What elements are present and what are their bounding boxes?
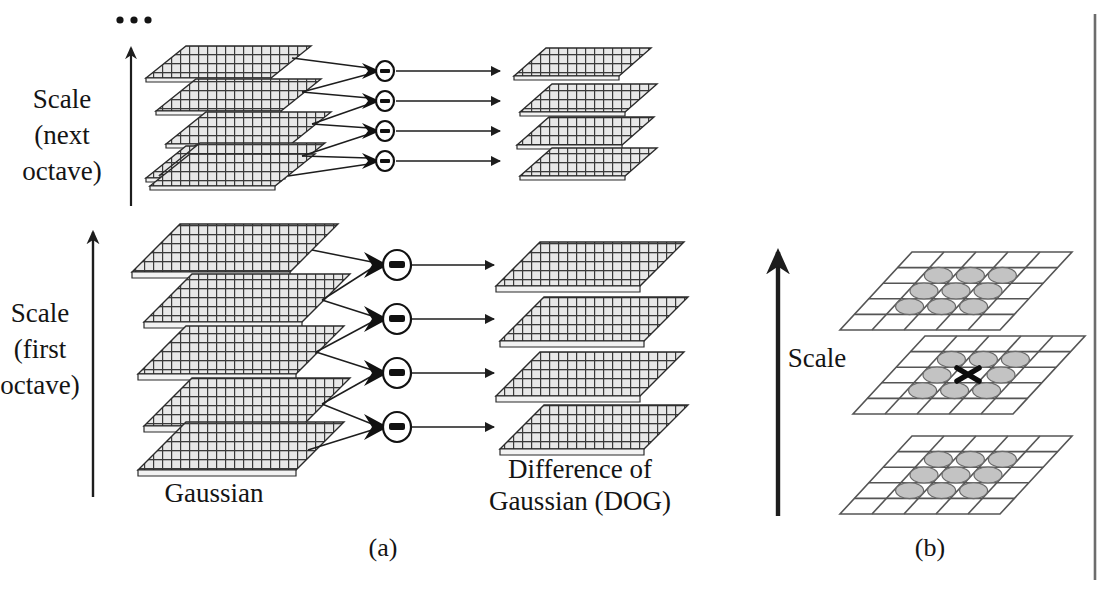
caption-panel-a: (a) bbox=[369, 533, 398, 562]
gaussian-column-label: Gaussian bbox=[165, 478, 264, 508]
sift-scale-space-figure: Scale (next octave) bbox=[0, 0, 1110, 596]
dog-column-label-line2: Gaussian (DOG) bbox=[489, 486, 671, 516]
ellipsis-dots bbox=[116, 16, 151, 23]
scale-next-octave-label-line3: octave) bbox=[22, 156, 101, 186]
scale-label-panel-b: Scale bbox=[788, 343, 846, 373]
scale-next-octave-label-line1: Scale bbox=[33, 84, 91, 114]
dog-column-label-line1: Difference of bbox=[508, 454, 652, 484]
caption-panel-b: (b) bbox=[915, 533, 945, 562]
figure-root: Scale (next octave) bbox=[0, 0, 1110, 596]
scale-first-octave-label-line2: (first bbox=[14, 334, 67, 364]
scale-first-octave-label-line3: octave) bbox=[0, 370, 79, 400]
scale-first-octave-label-line1: Scale bbox=[11, 298, 69, 328]
scale-next-octave-label-line2: (next bbox=[34, 120, 90, 150]
